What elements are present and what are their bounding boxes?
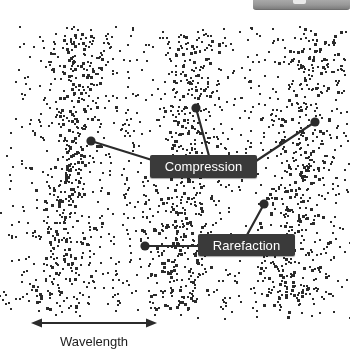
- callout-compression[interactable]: Compression: [150, 155, 257, 178]
- wavelength-label: Wavelength: [31, 334, 157, 349]
- labels-layer: Compression Rarefaction Wavelength: [0, 0, 350, 363]
- figure-canvas: Compression Rarefaction Wavelength: [0, 0, 350, 363]
- callout-rarefaction[interactable]: Rarefaction: [198, 234, 295, 256]
